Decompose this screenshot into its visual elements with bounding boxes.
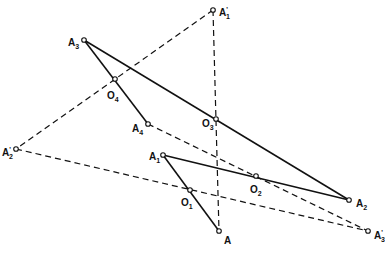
point-A1p bbox=[211, 8, 216, 13]
point-O1 bbox=[188, 188, 193, 193]
geometry-diagram: A'1A3O4A4O3A'2A1O2O1AA2A'3 bbox=[0, 0, 385, 254]
label-A3p: A'3 bbox=[374, 229, 385, 243]
label-A1p: A'1 bbox=[219, 6, 230, 20]
point-A3 bbox=[82, 38, 87, 43]
labels: A'1A3O4A4O3A'2A1O2O1AA2A'3 bbox=[2, 6, 385, 246]
label-O4: O4 bbox=[107, 90, 119, 103]
point-A2p bbox=[14, 147, 19, 152]
point-O3 bbox=[214, 117, 219, 122]
point-A4 bbox=[146, 122, 151, 127]
label-A2: A2 bbox=[356, 198, 367, 211]
label-A2p: A'2 bbox=[2, 146, 13, 160]
label-O2: O2 bbox=[250, 184, 262, 197]
point-A1 bbox=[161, 153, 166, 158]
label-A3: A3 bbox=[68, 37, 79, 50]
solid-line-A3-A4 bbox=[84, 40, 148, 124]
label-A4: A4 bbox=[132, 123, 143, 136]
label-O1: O1 bbox=[181, 197, 193, 210]
point-A bbox=[217, 229, 222, 234]
point-O4 bbox=[113, 77, 118, 82]
label-A: A bbox=[224, 235, 231, 246]
point-A3p bbox=[366, 229, 371, 234]
label-O3: O3 bbox=[202, 118, 214, 131]
point-A2 bbox=[347, 198, 352, 203]
point-O2 bbox=[254, 174, 259, 179]
label-A1: A1 bbox=[149, 151, 160, 164]
